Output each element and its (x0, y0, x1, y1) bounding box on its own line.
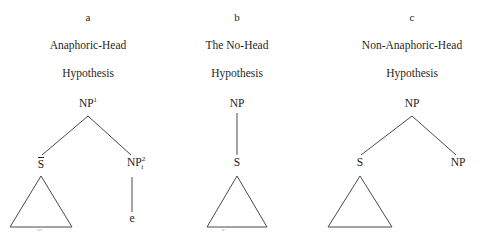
column-letter-a: a (58, 12, 118, 23)
column-c-title-line1: Non-Anaphoric-Head (337, 40, 486, 52)
node-a-sbar: S (21, 157, 61, 171)
branch-a-root-to-np2 (88, 116, 131, 155)
column-a-title-line2: Hypothesis (18, 68, 158, 80)
tree-lines-layer (0, 0, 486, 235)
triangle-b-s (207, 176, 267, 227)
node-b-root-np: NP (217, 98, 257, 110)
column-b-title-line2: Hypothesis (177, 68, 297, 80)
node-a-root-np1-base: NP (79, 97, 94, 109)
branch-c-root-to-np (412, 116, 456, 155)
node-a-terminal-e: e (112, 213, 152, 225)
figure-caption-text: Figure 1. Possible structures of Non-nul… (28, 229, 307, 231)
node-a-np2-base: NP (127, 156, 142, 168)
triangle-a-sbar (10, 176, 72, 227)
node-c-s: S (345, 157, 375, 169)
column-b-title-line1: The No-Head (177, 40, 297, 52)
node-a-root-np1: NP1 (63, 98, 113, 110)
node-a-sbar-base: S (38, 157, 44, 170)
column-c-title-line2: Hypothesis (337, 68, 486, 80)
column-letter-b: b (207, 12, 267, 23)
column-letter-c: c (382, 12, 442, 23)
node-a-root-np1-superscript: 1 (94, 96, 98, 104)
column-a-title-line1: Anaphoric-Head (18, 40, 158, 52)
branch-a-root-to-sbar (42, 116, 88, 155)
node-a-np2: NP2i (110, 157, 160, 169)
triangle-c-s (328, 176, 392, 227)
figure-caption-cutoff: Figure 1. Possible structures of Non-nul… (0, 229, 486, 235)
node-c-np: NP (438, 157, 478, 169)
figure-canvas: a Anaphoric-Head Hypothesis NP1 S NP2i e… (0, 0, 486, 235)
branch-c-root-to-s (361, 116, 412, 155)
node-b-s: S (222, 157, 252, 169)
node-c-root-np: NP (392, 98, 432, 110)
node-a-np2-superscript: 2 (142, 155, 146, 163)
